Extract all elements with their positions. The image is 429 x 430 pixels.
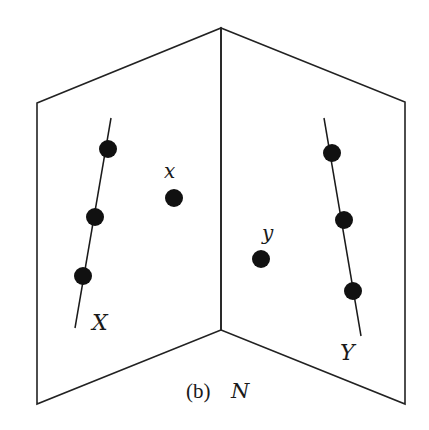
point-y-group: y — [252, 221, 274, 268]
point-x-dot — [165, 189, 183, 207]
line-y-label: Y — [340, 340, 357, 365]
line-x-dot-2 — [86, 208, 104, 226]
caption-prefix: (b) — [186, 379, 211, 403]
line-y-group: Y — [323, 118, 362, 365]
right-plane — [221, 28, 405, 404]
point-y-label: y — [261, 221, 274, 245]
point-x-group: x — [164, 159, 183, 207]
caption-symbol: N — [230, 379, 250, 403]
line-x-dot-1 — [99, 140, 117, 158]
open-book-diagram: X x y Y (b) N — [0, 0, 429, 430]
line-y-dot-1 — [323, 144, 341, 162]
left-plane — [37, 28, 221, 404]
line-y-dot-2 — [335, 211, 353, 229]
point-x-label: x — [164, 159, 175, 183]
line-x-dot-3 — [74, 267, 92, 285]
line-y-dot-3 — [344, 282, 362, 300]
line-x-group: X — [74, 118, 117, 335]
line-x-label: X — [90, 310, 109, 335]
figure-caption: (b) N — [186, 379, 250, 403]
point-y-dot — [252, 250, 270, 268]
